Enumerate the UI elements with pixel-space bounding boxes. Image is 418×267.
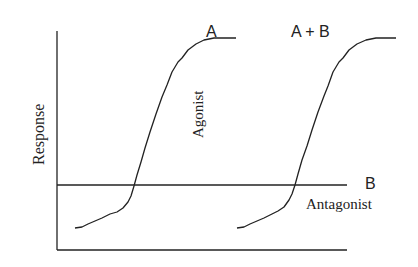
antagonist-annotation: Antagonist [306,196,373,212]
curve-label-a: A [206,23,217,40]
curve-label-a-plus-b: A + B [291,23,330,40]
curve-label-b: B [365,175,376,192]
agonist-annotation: Agonist [190,90,206,138]
dose-response-diagram: A A + B B Antagonist Agonist Response [0,0,418,267]
y-axis-label: Response [30,104,48,165]
agonist-curve-a [75,38,236,228]
